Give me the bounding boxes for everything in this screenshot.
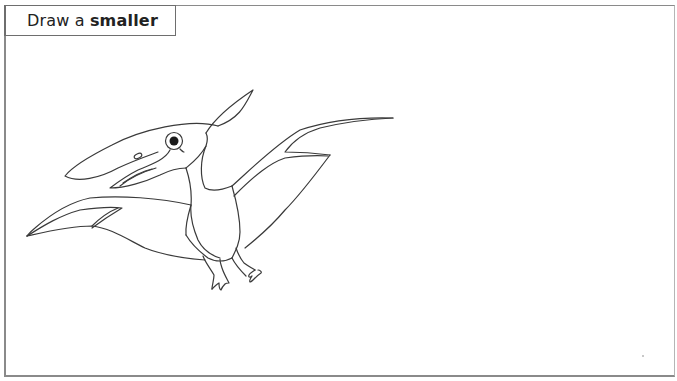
right-shin	[232, 258, 246, 276]
left-leg	[203, 256, 214, 289]
eye-pupil	[170, 137, 179, 146]
instruction-prefix: Draw a	[27, 11, 85, 30]
left-wing-inner-edge	[27, 207, 122, 236]
left-wing-finger	[92, 208, 118, 226]
head-upper-outline	[65, 123, 218, 179]
eye-lash	[180, 149, 184, 152]
left-foot	[212, 259, 229, 290]
body-right-edge	[232, 186, 240, 258]
instruction-emphasis: smaller	[90, 11, 158, 30]
right-wing-inner-edge	[285, 118, 393, 155]
body-belly	[186, 235, 232, 261]
right-leg	[236, 248, 255, 270]
instruction-label: Draw a smaller	[4, 5, 176, 36]
neck-back	[201, 146, 232, 190]
pterodactyl-illustration	[0, 0, 677, 381]
crest-outline	[206, 90, 253, 133]
paper-speck	[642, 355, 644, 357]
left-wing-lower-edge	[27, 226, 205, 260]
right-wing-membrane	[245, 155, 330, 248]
body-left-edge	[186, 205, 191, 235]
right-foot	[249, 270, 262, 282]
